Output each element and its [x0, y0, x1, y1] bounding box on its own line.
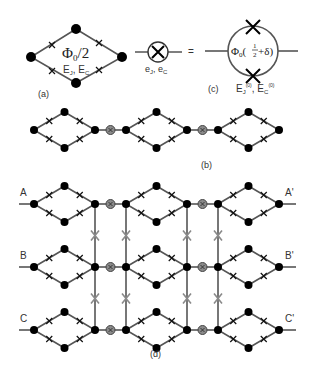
node	[153, 182, 161, 190]
big-element-caption: EJ(0), EC(0)	[236, 82, 275, 95]
junction-icon	[169, 318, 175, 324]
node	[71, 78, 81, 88]
junction-icon	[77, 118, 83, 124]
junction-icon	[230, 136, 236, 142]
node	[61, 281, 69, 289]
node	[245, 344, 253, 352]
panel-b-label: (b)	[201, 160, 212, 170]
node	[91, 200, 99, 208]
rhombus-edges	[218, 249, 279, 285]
junction-icon	[261, 318, 267, 324]
junction-icon	[138, 318, 144, 324]
flux-label: Φ0/2	[62, 45, 89, 63]
junction-icon	[77, 136, 83, 142]
rhombus-edges	[126, 312, 187, 348]
rhombus-edges	[126, 249, 187, 285]
energy-label: EJ, EC	[63, 64, 90, 76]
panel-c-equivalence: eJ, eC = Φ0( 1 2 +δ) (c) EJ(0), EC(0)	[135, 20, 298, 95]
junction-icon	[230, 255, 236, 261]
node	[91, 326, 99, 334]
rhombus-edges	[34, 249, 95, 285]
node	[91, 263, 99, 271]
node	[153, 281, 161, 289]
node	[26, 52, 36, 62]
junction-icon	[230, 118, 236, 124]
node	[214, 126, 222, 134]
node	[30, 200, 38, 208]
node	[245, 281, 253, 289]
junction-icon	[261, 210, 267, 216]
big-flux-rest: +δ)	[258, 45, 273, 58]
node	[61, 108, 69, 116]
panel-d-label: (d)	[150, 349, 161, 359]
junction-icon	[138, 210, 144, 216]
node	[117, 52, 127, 62]
node	[183, 326, 191, 334]
node	[245, 245, 253, 253]
node	[122, 200, 130, 208]
node	[214, 200, 222, 208]
node	[153, 245, 161, 253]
node	[61, 182, 69, 190]
node	[30, 126, 38, 134]
junction-icon	[230, 336, 236, 342]
rhombus-edges	[218, 312, 279, 348]
row-a-left-label: A	[20, 187, 27, 198]
panel-d-array	[19, 182, 296, 352]
rhombus-edges	[218, 186, 279, 222]
junction-icon	[230, 273, 236, 279]
junction-icon	[169, 336, 175, 342]
row-c-left-label: C	[20, 313, 27, 324]
node	[275, 200, 283, 208]
frac-num: 1	[253, 42, 257, 50]
junction-icon	[261, 336, 267, 342]
rhombus-edges	[34, 186, 95, 222]
row-b-left-label: B	[20, 250, 27, 261]
junction-icon	[169, 118, 175, 124]
node	[245, 144, 253, 152]
junction-icon	[230, 192, 236, 198]
junction-icon	[46, 192, 52, 198]
junction-icon	[169, 273, 175, 279]
node	[214, 326, 222, 334]
junction-icon	[230, 210, 236, 216]
row-b-right-label: B'	[285, 250, 294, 261]
frac-den: 2	[253, 51, 257, 59]
node	[30, 326, 38, 334]
junction-icon	[138, 336, 144, 342]
node	[153, 218, 161, 226]
node	[275, 263, 283, 271]
node	[30, 263, 38, 271]
node	[245, 308, 253, 316]
junction-icon	[169, 255, 175, 261]
node	[275, 126, 283, 134]
junction-icon	[230, 318, 236, 324]
junction-icon	[138, 118, 144, 124]
small-element-caption: eJ, eC	[145, 64, 168, 75]
junction-icon	[77, 273, 83, 279]
junction-icon	[46, 210, 52, 216]
junction-icon	[261, 192, 267, 198]
panel-a-label: (a)	[38, 89, 49, 99]
panel-c-label: (c)	[208, 84, 219, 94]
rhombi-chain-diagram: Φ0/2 EJ, EC (a) eJ, eC = Φ0( 1 2 +δ) (c)…	[0, 0, 313, 379]
junction-icon	[77, 192, 83, 198]
junction-icon	[46, 318, 52, 324]
junction-icon	[77, 318, 83, 324]
node	[122, 126, 130, 134]
big-flux-label: Φ0(	[231, 45, 247, 59]
junction-icon	[169, 192, 175, 198]
node	[275, 326, 283, 334]
node	[61, 218, 69, 226]
junction-icon	[46, 273, 52, 279]
junction-icon	[261, 136, 267, 142]
junction-icon	[261, 255, 267, 261]
node	[91, 126, 99, 134]
row-a-right-label: A'	[285, 187, 294, 198]
node	[61, 344, 69, 352]
row-c-right-label: C'	[285, 313, 294, 324]
rhombus-edges	[218, 112, 279, 148]
node	[122, 263, 130, 271]
equals-sign: =	[188, 46, 194, 57]
panel-a-rhombus: Φ0/2 EJ, EC (a)	[26, 24, 127, 99]
